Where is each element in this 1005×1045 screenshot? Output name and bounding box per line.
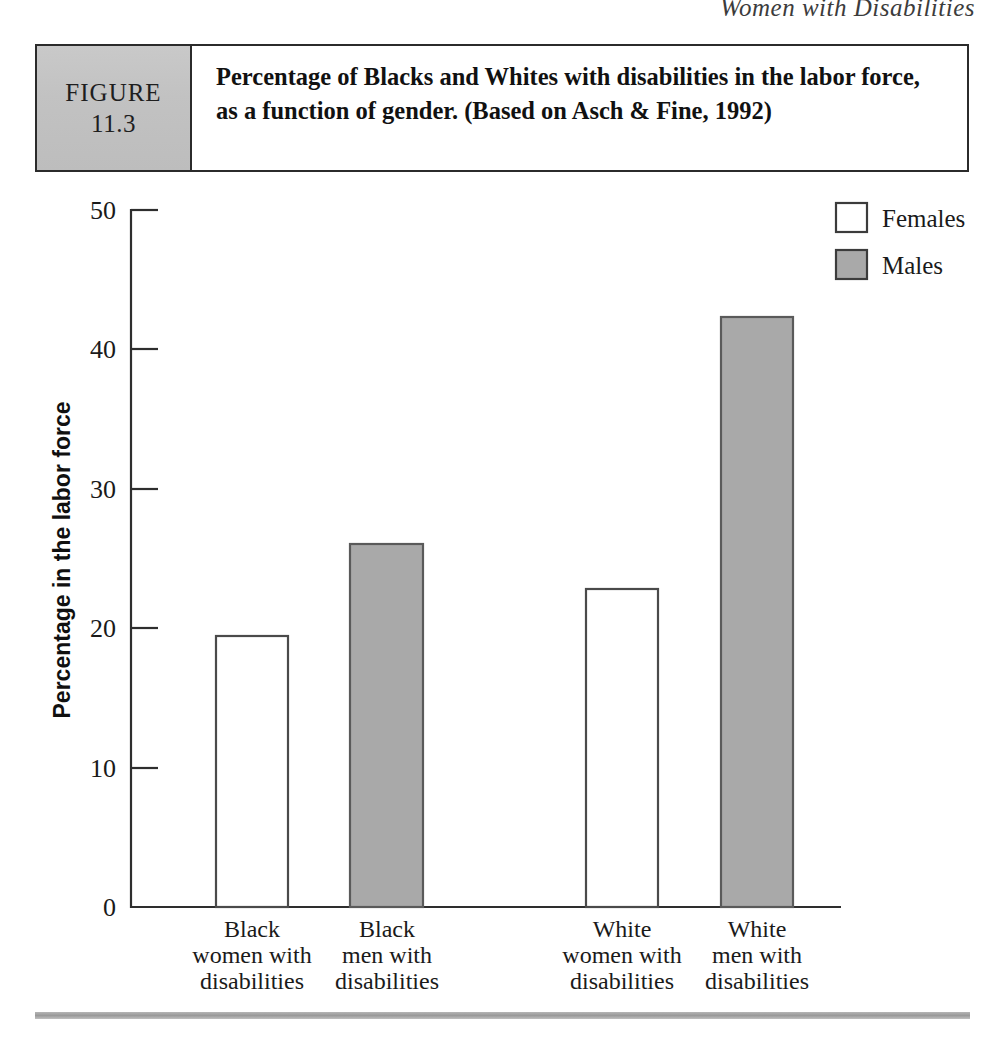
x-axis-category-labels: Black women with disabilities Black men … bbox=[192, 916, 809, 994]
legend-label-males: Males bbox=[882, 252, 943, 279]
cat-label-black-women-line1: Black bbox=[224, 916, 280, 942]
cat-label-white-men-line2: men with bbox=[712, 942, 802, 968]
cat-label-white-women-line2: women with bbox=[562, 942, 681, 968]
y-axis-title: Percentage in the labor force bbox=[49, 402, 75, 719]
cat-label-white-women-line1: White bbox=[593, 916, 652, 942]
chart-legend: Females Males bbox=[836, 203, 965, 279]
y-axis-ticks bbox=[131, 210, 158, 768]
y-tick-label-20: 20 bbox=[90, 614, 116, 643]
y-tick-label-0: 0 bbox=[103, 893, 116, 922]
y-tick-label-50: 50 bbox=[90, 196, 116, 225]
bar-chart: 50 40 30 20 10 0 Percentage in the labor… bbox=[0, 0, 1005, 1045]
cat-label-white-women-line3: disabilities bbox=[570, 968, 674, 994]
cat-label-white-men-line3: disabilities bbox=[705, 968, 809, 994]
cat-label-black-men-line1: Black bbox=[359, 916, 415, 942]
legend-swatch-males bbox=[836, 250, 867, 279]
y-tick-label-10: 10 bbox=[90, 754, 116, 783]
y-tick-label-30: 30 bbox=[90, 475, 116, 504]
bottom-rule-divider bbox=[35, 1012, 970, 1019]
y-tick-label-40: 40 bbox=[90, 335, 116, 364]
cat-label-black-men-line3: disabilities bbox=[335, 968, 439, 994]
y-axis-tick-labels: 50 40 30 20 10 0 bbox=[90, 196, 116, 922]
bar-white-men[interactable] bbox=[721, 317, 793, 907]
cat-label-black-men-line2: men with bbox=[342, 942, 432, 968]
cat-label-black-women-line2: women with bbox=[192, 942, 311, 968]
bar-white-women[interactable] bbox=[586, 589, 658, 907]
legend-swatch-females bbox=[836, 203, 867, 232]
bar-black-women[interactable] bbox=[216, 636, 288, 907]
cat-label-white-men-line1: White bbox=[728, 916, 787, 942]
bars-group bbox=[216, 317, 793, 907]
cat-label-black-women-line3: disabilities bbox=[200, 968, 304, 994]
legend-label-females: Females bbox=[882, 205, 965, 232]
bar-black-men[interactable] bbox=[350, 544, 423, 907]
